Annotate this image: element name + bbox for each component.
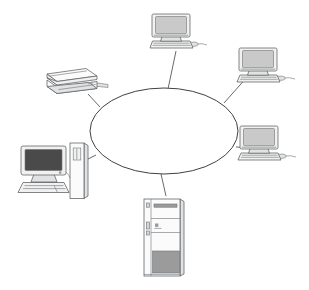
desktop-computer-top[interactable] <box>150 14 207 48</box>
server-led-indicator-mid <box>146 222 149 229</box>
link-cloud-to-printer <box>88 94 100 107</box>
mini-tower-side-panel <box>84 143 88 199</box>
keyboard-icon <box>18 183 69 193</box>
server-led-indicator-top <box>146 203 149 207</box>
keyboard-icon <box>237 75 280 82</box>
server-tower-bottom[interactable] <box>144 199 184 276</box>
workstation-bottom-left[interactable] <box>18 143 88 199</box>
network-diagram <box>0 0 309 290</box>
keyboard-icon <box>150 41 193 48</box>
desktop-computer-right[interactable] <box>238 126 296 160</box>
network-diagram-canvas <box>0 0 309 290</box>
server-led-indicator-low <box>146 231 149 235</box>
server-side-panel <box>180 199 184 276</box>
link-cloud-to-desktop-top <box>168 51 176 89</box>
keyboard-icon <box>238 153 281 160</box>
laser-printer-top-left[interactable] <box>47 69 108 94</box>
server-lower-vent-panel <box>153 251 180 273</box>
server-optical-drive-slot <box>154 204 177 207</box>
power-indicator-icon <box>59 171 62 174</box>
server-badge-icon <box>155 224 158 227</box>
link-cloud-to-server-tower <box>161 174 166 196</box>
monitor-screen <box>243 51 274 68</box>
monitor-screen <box>25 150 62 171</box>
network-cloud[interactable] <box>90 88 238 174</box>
desktop-computer-top-right[interactable] <box>237 48 295 82</box>
network-cloud-ellipse[interactable] <box>90 88 238 174</box>
monitor-screen <box>156 17 187 34</box>
monitor-screen <box>244 129 275 146</box>
